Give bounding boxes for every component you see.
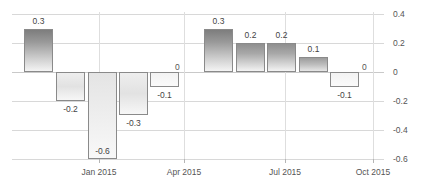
plot-area: 0.3 -0.2 -0.6 -0.3 -0.1 0.3 0.2 0.2 0.1 … — [0, 0, 430, 192]
bar-4-value: -0.3 — [119, 119, 148, 128]
bar-chart: 0.3 -0.2 -0.6 -0.3 -0.1 0.3 0.2 0.2 0.1 … — [0, 0, 430, 192]
vgridline-apr-2015 — [184, 12, 185, 160]
xtick-mark-oct-2015 — [373, 159, 374, 163]
bar-1[interactable] — [24, 29, 53, 72]
xtick-label-oct-2015: Oct 2015 — [343, 168, 403, 177]
bar-10[interactable] — [330, 72, 359, 87]
gridline-0.4 — [12, 14, 384, 15]
bar-1-value: 0.3 — [24, 17, 53, 26]
bar-5[interactable] — [150, 72, 179, 87]
bar-2[interactable] — [56, 72, 85, 101]
xtick-mark-jan-2015 — [99, 159, 100, 163]
bar-8[interactable] — [267, 43, 296, 72]
bar-7[interactable] — [236, 43, 265, 72]
bar-2-value: -0.2 — [56, 105, 85, 114]
gridline-minus-0.2 — [12, 101, 384, 102]
bar-8-value: 0.2 — [267, 31, 296, 40]
bar-6-value: 0.3 — [204, 17, 233, 26]
gridline-minus-0.6 — [12, 159, 384, 160]
vgridline-oct-2015 — [373, 12, 374, 160]
bar-3-value: -0.6 — [88, 147, 117, 156]
xtick-label-jul-2015: Jul 2015 — [255, 168, 315, 177]
xtick-mark-jul-2015 — [285, 159, 286, 163]
xtick-label-apr-2015: Apr 2015 — [154, 168, 214, 177]
ytick-label-minus-0.6: -0.6 — [393, 155, 408, 164]
bar-7-value: 0.2 — [236, 31, 265, 40]
gridline-minus-0.4 — [12, 130, 384, 131]
bar-10-value: -0.1 — [330, 91, 359, 100]
inner-zero-label-left: 0 — [175, 63, 180, 72]
ytick-label-minus-0.4: -0.4 — [393, 126, 408, 135]
ytick-label-0.2: 0.2 — [393, 39, 405, 48]
xtick-mark-apr-2015 — [184, 159, 185, 163]
ytick-label-minus-0.2: -0.2 — [393, 97, 408, 106]
bar-9[interactable] — [299, 57, 328, 72]
gridline-0.2 — [12, 43, 384, 44]
bar-5-value: -0.1 — [150, 91, 179, 100]
bar-4[interactable] — [119, 72, 148, 115]
ytick-label-0: 0 — [393, 68, 398, 77]
xtick-label-jan-2015: Jan 2015 — [69, 168, 129, 177]
bar-9-value: 0.1 — [299, 45, 328, 54]
ytick-label-0.4: 0.4 — [393, 10, 405, 19]
inner-zero-label-right: 0 — [362, 63, 367, 72]
bar-6[interactable] — [204, 29, 233, 72]
